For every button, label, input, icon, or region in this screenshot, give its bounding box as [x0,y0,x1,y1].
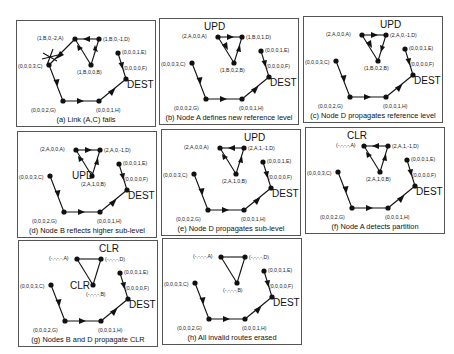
label-e: (0,0,0,1,E) [123,160,147,166]
label-h: (0,0,0,1,H) [98,327,123,333]
label-h: (0,0,0,1,H) [385,214,410,220]
label-a: (-,-,-,-,A) [336,142,356,148]
panel-h: (-,-,-,-,A) (-,-,-,-,D) (-,-,-,-,B) (0,0… [162,238,302,345]
label-c: (0,0,0,3,C) [307,170,332,176]
label-d: (2,A,0,-1,D) [104,147,131,153]
dest-label: DEST [272,188,299,199]
caption-d: (d) Node B reflects higher sub-level [29,226,145,235]
dest-label: DEST [273,297,300,308]
panel-f: CLR (-,-,-,-,A) (2,A,1,-1,D) (2,A,1,0,B)… [305,127,445,234]
graph-f: CLR (-,-,-,-,A) (2,A,1,-1,D) (2,A,1,0,B)… [306,128,444,233]
panel-b: UPD (2,A,0,0,A) (1,B,0,1,D) (1,B,0,2,B) … [159,18,299,125]
label-c: (0,0,0,3,C) [161,61,186,67]
label-e: (0,0,0,1,E) [122,49,146,55]
label-b: (2,A,1,0,B) [366,176,391,182]
label-c: (0,0,0,3,C) [164,281,189,287]
label-h: (0,0,0,1,H) [383,103,408,109]
label-g: (0,0,0,2,G) [177,325,202,331]
label-b: (1,B,0,2,B) [364,65,389,71]
label-g: (0,0,0,2,G) [320,214,345,220]
label-f: (0,0,0,0,F) [268,174,292,180]
label-f: (0,0,0,0,F) [266,63,290,69]
upd-marker: UPD [380,19,401,30]
label-c: (0,0,0,3,C) [163,172,188,178]
label-e: (0,0,0,1,E) [268,267,292,273]
panel-g: CLR CLR (-,-,-,-,A) (-,-,-,-,D) (-,-,-,-… [18,240,158,347]
upd-marker: UPD [204,21,225,32]
graph-d: UPD (2,A,0,0,A) (2,A,0,-1,D) (2,A,1,0,B)… [18,132,156,237]
label-g: (0,0,0,2,G) [33,327,58,333]
clr-marker: CLR [347,130,367,141]
dest-label: DEST [416,186,443,197]
label-b: (-,-,-,-,B) [223,287,243,293]
label-g: (0,0,0,2,G) [174,105,199,111]
caption-f: (f) Node A detects partition [331,222,418,231]
label-b: (1,B,0,0,B) [77,69,102,75]
label-g: (0,0,0,2,G) [318,103,343,109]
label-d: (1,B,0,1,D) [246,34,271,40]
label-a: (2,A,0,0,A) [326,31,351,37]
label-d: (-,-,-,-,D) [249,254,269,260]
label-h: (0,0,0,1,H) [241,216,266,222]
label-d: (2,A,1,-1,D) [392,143,419,149]
label-f: (0,0,0,0,F) [124,176,148,182]
label-c: (0,0,0,3,C) [18,63,43,69]
caption-h: (h) All invalid routes erased [187,333,276,342]
dest-label: DEST [127,79,154,90]
caption-b: (b) Node A defines new reference level [166,113,293,122]
label-b: (1,B,0,2,B) [220,67,245,73]
panel-d: UPD (2,A,0,0,A) (2,A,0,-1,D) (2,A,1,0,B)… [17,131,157,238]
panel-a: (1,B,0,-2,A) (1,B,0,-1,D) (1,B,0,0,B) (0… [16,20,156,127]
label-e: (0,0,0,1,E) [411,156,435,162]
label-c: (0,0,0,3,C) [305,59,330,65]
dest-label: DEST [128,190,155,201]
label-e: (0,0,0,1,E) [409,45,433,51]
dest-label: DEST [414,75,441,86]
label-g: (0,0,0,2,G) [32,218,57,224]
dest-label: DEST [270,77,297,88]
label-a: (2,A,0,0,A) [40,146,65,152]
upd-marker: UPD [244,132,265,143]
label-d: (2,A,0,-1,D) [390,32,417,38]
label-b: (2,A,1,0,B) [81,181,106,187]
label-a: (-,-,-,-,A) [193,253,213,259]
label-b: (-,-,-,-,B) [86,291,106,297]
label-a: (2,A,0,0,A) [182,33,207,39]
dest-label: DEST [129,299,156,310]
label-a: (1,B,0,-2,A) [37,35,64,41]
label-b: (2,A,1,0,B) [222,178,247,184]
label-h: (0,0,0,1,H) [242,325,267,331]
label-f: (0,0,0,0,F) [410,61,434,67]
panel-e: UPD (2,A,0,0,A) (2,A,1,-1,D) (2,A,1,0,B)… [161,129,301,236]
label-a: (-,-,-,-,A) [49,255,69,261]
graph-h: (-,-,-,-,A) (-,-,-,-,D) (-,-,-,-,B) (0,0… [163,239,301,344]
label-f: (0,0,0,0,F) [412,172,436,178]
graph-e: UPD (2,A,0,0,A) (2,A,1,-1,D) (2,A,1,0,B)… [162,130,300,235]
graph-g: CLR CLR (-,-,-,-,A) (-,-,-,-,D) (-,-,-,-… [19,241,157,346]
label-d: (-,-,-,-,D) [105,256,125,262]
label-e: (0,0,0,1,E) [267,158,291,164]
label-h: (0,0,0,1,H) [96,107,121,113]
clr-marker-d: CLR [99,243,119,254]
graph-b: UPD (2,A,0,0,A) (1,B,0,1,D) (1,B,0,2,B) … [160,19,298,124]
label-d: (1,B,0,-1,D) [103,36,130,42]
caption-a: (a) Link (A,C) fails [56,115,115,124]
label-d: (2,A,1,-1,D) [248,145,275,151]
label-e: (0,0,0,1,E) [265,47,289,53]
label-f: (0,0,0,0,F) [269,283,293,289]
label-c: (0,0,0,3,C) [19,174,44,180]
label-g: (0,0,0,2,G) [176,216,201,222]
label-h: (0,0,0,1,H) [97,218,122,224]
caption-g: (g) Nodes B and D propagate CLR [31,335,144,344]
graph-a: (1,B,0,-2,A) (1,B,0,-1,D) (1,B,0,0,B) (0… [17,21,155,126]
clr-marker-b: CLR [70,280,90,291]
label-e: (0,0,0,1,E) [124,269,148,275]
label-c: (0,0,0,3,C) [20,283,45,289]
upd-marker: UPD [72,170,93,181]
label-f: (0,0,0,0,F) [125,285,149,291]
caption-c: (c) Node D propagates reference level [310,111,436,120]
panel-c: UPD (2,A,0,0,A) (2,A,0,-1,D) (1,B,0,2,B)… [303,16,443,123]
graph-c: UPD (2,A,0,0,A) (2,A,0,-1,D) (1,B,0,2,B)… [304,17,442,122]
label-h: (0,0,0,1,H) [239,105,264,111]
label-f: (0,0,0,0,F) [123,65,147,71]
